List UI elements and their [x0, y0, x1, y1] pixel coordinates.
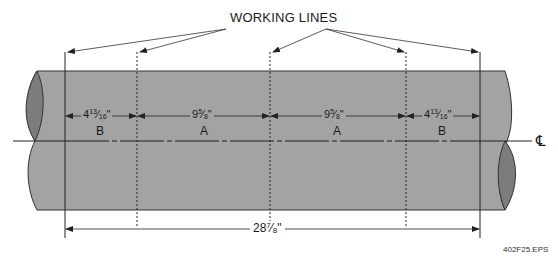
segment-dimension-4: 413⁄16": [422, 108, 453, 120]
pipe-right-end-face: [498, 141, 515, 210]
segment-dimension-2: 95⁄8": [190, 108, 214, 120]
leader-lines: [68, 29, 478, 52]
working-lines-title: WORKING LINES: [230, 10, 337, 25]
segment-letter-4: B: [438, 124, 446, 138]
total-dimension-label: 287⁄8": [250, 221, 285, 235]
pipe-working-lines-diagram: WORKING LINES 413⁄16" B 95⁄8" A 95⁄8" A …: [0, 0, 558, 263]
segment-dimension-1: 413⁄16": [81, 108, 112, 120]
segment-letter-2: A: [200, 124, 208, 138]
figure-id: 402F25.EPS: [503, 245, 548, 254]
segment-letter-1: B: [96, 124, 104, 138]
centerline-symbol: ℄: [536, 132, 546, 150]
segment-dimension-3: 95⁄8": [322, 108, 346, 120]
segment-letter-3: A: [333, 124, 341, 138]
